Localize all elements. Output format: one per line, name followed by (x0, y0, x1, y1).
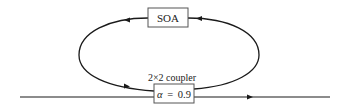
ring-left-path (79, 18, 154, 91)
arrow-top-left-icon (124, 18, 130, 23)
arrow-bus-icon (247, 95, 253, 100)
coupler-caption: 2×2 coupler (148, 72, 197, 83)
coupler-param-equals: = (167, 89, 173, 100)
diagram-canvas: SOA 2×2 coupler α = 0.9 (0, 0, 342, 111)
arrow-top-right-icon (196, 16, 202, 21)
coupler-parameter: α = 0.9 (157, 89, 191, 100)
soa-label: SOA (157, 12, 179, 24)
coupler-param-symbol: α (157, 89, 163, 100)
ring-right-path (188, 18, 259, 89)
coupler-param-value: 0.9 (178, 89, 191, 100)
diagram-svg: SOA 2×2 coupler α = 0.9 (0, 0, 342, 111)
